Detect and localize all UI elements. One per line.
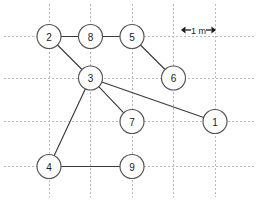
node-5[interactable]: 5 [120,25,144,49]
edge-5-6 [140,45,165,70]
node-label-7: 7 [129,117,135,128]
node-9[interactable]: 9 [120,155,144,179]
node-7[interactable]: 7 [120,110,144,134]
node-1[interactable]: 1 [203,110,227,134]
node-6[interactable]: 6 [162,66,186,90]
node-label-1: 1 [212,117,218,128]
edge-2-3 [57,45,82,70]
arrow-left-icon [181,27,186,34]
scale-bar: 1 m [181,26,216,36]
edge-3-7 [99,87,124,113]
node-label-4: 4 [46,162,52,173]
network-diagram-figure: 123456789 1 m [0,0,258,201]
node-label-2: 2 [46,32,52,43]
node-label-8: 8 [88,32,94,43]
edge-3-4 [54,89,85,156]
node-label-6: 6 [171,73,177,84]
node-label-9: 9 [129,162,135,173]
edge-layer [54,37,204,167]
edge-3-1 [102,82,204,118]
node-8[interactable]: 8 [79,25,103,49]
node-label-5: 5 [129,32,135,43]
scale-bar-label: 1 m [191,26,206,36]
node-label-3: 3 [88,73,94,84]
diagram-canvas: 123456789 1 m [0,0,258,201]
node-2[interactable]: 2 [37,25,61,49]
node-3[interactable]: 3 [79,66,103,90]
node-4[interactable]: 4 [37,155,61,179]
